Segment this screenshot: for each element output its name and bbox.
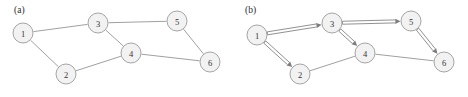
- edge-stroke: [343, 23, 396, 24]
- arrow-head-icon: [432, 48, 437, 54]
- node-layer: 123456: [13, 11, 220, 84]
- graph-node-2[interactable]: 2: [56, 64, 76, 84]
- edge-stroke: [109, 21, 167, 22]
- node-label: 3: [330, 19, 334, 29]
- edge-stroke: [264, 43, 288, 64]
- edge-stroke: [342, 20, 395, 21]
- edge-stroke: [310, 56, 355, 71]
- edge-4-6: [375, 54, 433, 61]
- graph-node-2[interactable]: 2: [290, 64, 310, 84]
- arrow-head-icon: [316, 23, 322, 28]
- edge-1-3: [33, 24, 87, 31]
- node-label: 1: [255, 31, 259, 41]
- edge-5-6: [416, 28, 437, 54]
- edge-stroke: [375, 54, 433, 61]
- graph-node-4[interactable]: 4: [355, 43, 375, 63]
- edge-stroke: [106, 30, 123, 46]
- graph-node-4[interactable]: 4: [121, 43, 141, 63]
- edge-3-4: [106, 30, 123, 46]
- graph-figure: 123456(a)123456(b): [0, 0, 468, 97]
- edge-stroke: [416, 30, 433, 51]
- arrow-head-icon: [395, 19, 400, 24]
- graph-node-5[interactable]: 5: [167, 11, 187, 31]
- edge-1-2: [31, 40, 59, 67]
- graph-node-3[interactable]: 3: [88, 13, 108, 33]
- graph-node-1[interactable]: 1: [13, 23, 33, 43]
- panel-b: 123456(b): [245, 5, 454, 84]
- panel-a: 123456(a): [13, 5, 220, 84]
- edge-3-4: [339, 29, 357, 46]
- edge-3-5: [109, 21, 167, 22]
- node-label: 5: [175, 17, 179, 27]
- edge-stroke: [76, 56, 121, 71]
- edge-stroke: [33, 24, 87, 31]
- graph-node-5[interactable]: 5: [401, 11, 421, 31]
- figure-canvas: 123456(a)123456(b): [0, 0, 468, 97]
- node-label: 3: [96, 19, 100, 29]
- node-layer: 123456: [247, 11, 454, 84]
- graph-node-6[interactable]: 6: [434, 52, 454, 72]
- edge-1-3: [267, 23, 322, 35]
- node-label: 5: [409, 17, 413, 27]
- node-label: 2: [298, 70, 302, 80]
- panel-label-panel-b: (b): [245, 5, 256, 16]
- edge-5-6: [184, 29, 204, 54]
- edge-2-4: [310, 56, 355, 71]
- edge-2-4: [76, 56, 121, 71]
- graph-node-1[interactable]: 1: [247, 25, 267, 45]
- edge-stroke: [419, 28, 436, 49]
- node-label: 6: [442, 58, 446, 68]
- panel-label-panel-a: (a): [14, 5, 25, 16]
- graph-node-3[interactable]: 3: [322, 13, 342, 33]
- edge-4-6: [141, 54, 199, 61]
- edge-1-2: [264, 41, 292, 67]
- node-label: 2: [64, 70, 68, 80]
- node-label: 1: [21, 29, 25, 39]
- edge-3-5: [342, 19, 400, 24]
- edge-stroke: [266, 41, 290, 62]
- edge-stroke: [141, 54, 199, 61]
- edge-stroke: [184, 29, 204, 54]
- node-label: 6: [208, 58, 212, 68]
- graph-node-6[interactable]: 6: [200, 52, 220, 72]
- edge-stroke: [31, 40, 59, 67]
